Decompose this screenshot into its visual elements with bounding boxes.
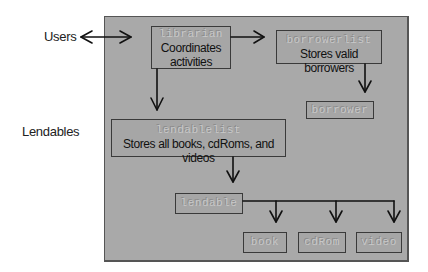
connector-arrows <box>0 0 428 272</box>
users-librarian-bidirectional-arrow <box>81 31 131 43</box>
librarian-to-lendablelist-arrow <box>151 69 163 110</box>
lendable-to-subclasses-arrows <box>243 201 400 222</box>
borrowerlist-to-borrower-arrow <box>359 64 371 92</box>
librarian-to-borrowerlist-arrow <box>231 31 264 43</box>
lendablelist-to-lendable-arrow <box>227 157 239 182</box>
